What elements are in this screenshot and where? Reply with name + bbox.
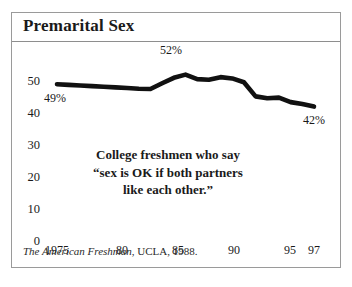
title-block: Premarital Sex bbox=[12, 13, 340, 43]
x-tick-90: 90 bbox=[228, 244, 240, 256]
y-tick-10: 10 bbox=[14, 203, 40, 215]
y-tick-30: 30 bbox=[14, 139, 40, 151]
annotation-line-1: College freshmen who say bbox=[48, 146, 288, 164]
figure-frame: Premarital Sex 50 40 30 20 10 0 1975 80 … bbox=[11, 12, 341, 268]
data-series-line bbox=[57, 75, 314, 107]
x-tick-95: 95 bbox=[284, 244, 296, 256]
callout-end: 42% bbox=[303, 114, 325, 126]
chart-annotation: College freshmen who say “sex is OK if b… bbox=[48, 146, 288, 199]
annotation-line-2: “sex is OK if both partners bbox=[48, 164, 288, 182]
source-note: The American Freshman, UCLA, 1988. bbox=[23, 245, 197, 258]
source-detail: , UCLA, 1988. bbox=[132, 245, 198, 257]
page-title: Premarital Sex bbox=[23, 15, 135, 37]
x-tick-97: 97 bbox=[308, 244, 320, 256]
plot-area: 50 40 30 20 10 0 1975 80 85 90 95 97 49%… bbox=[12, 42, 342, 238]
annotation-line-3: like each other.” bbox=[48, 181, 288, 199]
source-publication: The American Freshman bbox=[23, 245, 132, 257]
y-tick-20: 20 bbox=[14, 171, 40, 183]
callout-start: 49% bbox=[44, 92, 66, 104]
y-tick-50: 50 bbox=[14, 75, 40, 87]
callout-peak: 52% bbox=[160, 44, 182, 56]
y-tick-40: 40 bbox=[14, 107, 40, 119]
line-chart-svg bbox=[12, 42, 342, 238]
